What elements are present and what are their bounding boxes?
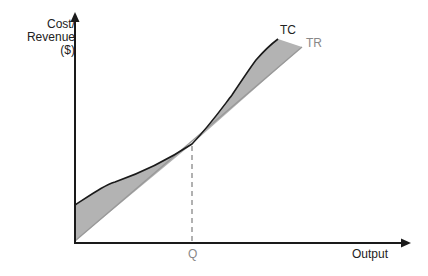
x-axis-arrow-icon — [401, 239, 411, 248]
q-label: Q — [188, 248, 197, 261]
x-axis-label: Output — [352, 248, 388, 261]
tc-curve — [75, 39, 278, 205]
tr-line — [75, 47, 302, 241]
shaded-gap-region-upper — [192, 39, 302, 144]
y-axis-label-line-3: ($) — [27, 44, 75, 57]
y-axis-label: Cost/ Revenue ($) — [27, 18, 75, 57]
tr-label: TR — [306, 37, 322, 50]
tc-label: TC — [280, 24, 296, 37]
